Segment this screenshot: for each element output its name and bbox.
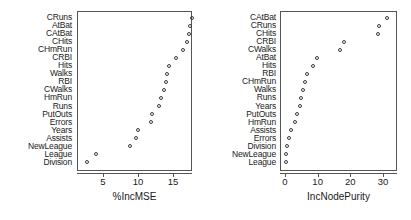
axis-tick-label: 10 [123,176,153,187]
variable-label: League [206,158,276,166]
data-point [338,48,342,52]
data-point [190,16,194,20]
axis-tick-label: 10 [303,176,333,187]
axis-tick-label: 0 [270,176,300,187]
x-axis-line-incnodepurity [280,173,397,174]
x-axis-title-incmse: %IncMSE [77,191,192,202]
data-point [157,104,161,108]
axis-tick-label: 20 [335,176,365,187]
data-point [299,96,303,100]
data-point [284,160,288,164]
axis-tick-label: 5 [88,176,118,187]
data-point [159,96,163,100]
data-point [187,32,191,36]
plot-frame-incmse [77,11,192,171]
data-point [136,128,140,132]
data-point [162,88,166,92]
variable-label: Division [2,158,72,166]
x-axis-line-incmse [77,173,192,174]
data-point [385,16,389,20]
axis-tick-label: 15 [158,176,188,187]
data-point [315,56,319,60]
axis-tick-label: 30 [368,176,398,187]
data-point [164,80,168,84]
data-point [305,72,309,76]
data-point [285,144,289,148]
data-point [303,80,307,84]
panel-incmse: CRunsAtBatCAtBatCHitsCHmRunCRBIHitsWalks… [0,0,206,220]
data-point [298,104,302,108]
data-point [167,64,171,68]
data-point [85,160,89,164]
data-point [128,144,132,148]
x-axis-title-incnodepurity: IncNodePurity [280,191,397,202]
panel-incnodepurity: CAtBatCRunsCHitsCRBICWalksAtBatHitsRBICH… [206,0,411,220]
variable-importance-plot: CRunsAtBatCAtBatCHitsCHmRunCRBIHitsWalks… [0,0,411,220]
data-point [342,40,346,44]
y-axis-labels-incnodepurity: CAtBatCRunsCHitsCRBICWalksAtBatHitsRBICH… [206,13,276,166]
y-axis-labels-incmse: CRunsAtBatCAtBatCHitsCHmRunCRBIHitsWalks… [2,13,72,166]
data-point [149,120,153,124]
data-point [293,120,297,124]
